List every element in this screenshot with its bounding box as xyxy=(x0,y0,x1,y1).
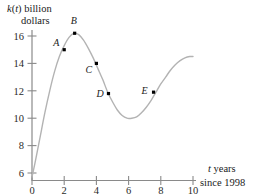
x-axis-label-line2: since 1998 xyxy=(200,177,245,188)
data-point-marker-b xyxy=(73,32,76,35)
coordinate-plot-svg: k(t) billion dollars 6810121416 0246810 … xyxy=(0,0,257,194)
data-point-marker-a xyxy=(63,48,66,51)
x-axis-label-years: years xyxy=(211,163,236,174)
data-point-marker-e xyxy=(152,91,155,94)
data-point-marker-c xyxy=(95,62,98,65)
function-curve xyxy=(32,33,193,177)
graph-figure: k(t) billion dollars 6810121416 0246810 … xyxy=(0,0,257,194)
data-point-label-b: B xyxy=(71,15,77,26)
x-tick-label: 4 xyxy=(94,185,100,194)
y-axis-label-units: billion xyxy=(22,3,53,14)
y-tick-label: 8 xyxy=(19,140,24,151)
data-point-label-a: A xyxy=(52,37,60,48)
y-tick-label: 12 xyxy=(14,86,25,97)
x-tick-label: 0 xyxy=(29,185,34,194)
data-point-label-d: D xyxy=(95,88,104,99)
data-point-label-e: E xyxy=(141,85,148,96)
y-axis-label-line1: k(t) billion xyxy=(7,3,52,15)
y-tick-label: 14 xyxy=(14,58,25,69)
x-tick-label: 2 xyxy=(62,185,67,194)
data-point-label-c: C xyxy=(85,64,92,75)
y-tick-label: 16 xyxy=(14,31,25,42)
x-tick-label: 6 xyxy=(126,185,131,194)
x-axis-label-line1: t years xyxy=(208,163,236,174)
y-axis-label-line2: dollars xyxy=(21,15,50,26)
x-tick-label: 8 xyxy=(158,185,163,194)
labeled-points-group: ABCDE xyxy=(52,15,155,98)
x-tick-group: 0246810 xyxy=(29,176,198,194)
x-tick-label: 10 xyxy=(188,185,199,194)
y-tick-label: 6 xyxy=(19,168,24,179)
data-point-marker-d xyxy=(107,92,110,95)
y-tick-label: 10 xyxy=(14,113,25,124)
y-tick-group: 6810121416 xyxy=(14,31,37,179)
